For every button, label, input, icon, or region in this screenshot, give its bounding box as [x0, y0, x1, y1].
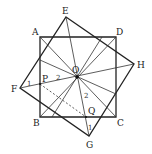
dashed-segment-pq — [40, 84, 86, 117]
angle-mark-1-f: 1 — [27, 80, 31, 88]
angle-mark-2-op: 2 — [56, 74, 60, 82]
point-p — [39, 83, 41, 85]
label-f: F — [11, 84, 17, 94]
point-q — [85, 116, 87, 118]
geometry-diagram: E A D H O F P B C Q G 1 2 2 1 — [0, 0, 152, 154]
label-h: H — [137, 60, 145, 70]
label-b: B — [33, 118, 40, 128]
label-p: P — [42, 74, 48, 84]
label-d: D — [116, 27, 123, 37]
label-o: O — [72, 65, 79, 75]
label-e: E — [62, 6, 69, 16]
label-g: G — [86, 140, 93, 150]
angle-mark-2-oq: 2 — [84, 92, 88, 100]
label-c: C — [117, 118, 124, 128]
label-a: A — [31, 27, 39, 37]
center-point-o — [75, 75, 79, 79]
label-q: Q — [88, 106, 95, 116]
angle-mark-1-g: 1 — [88, 124, 92, 132]
